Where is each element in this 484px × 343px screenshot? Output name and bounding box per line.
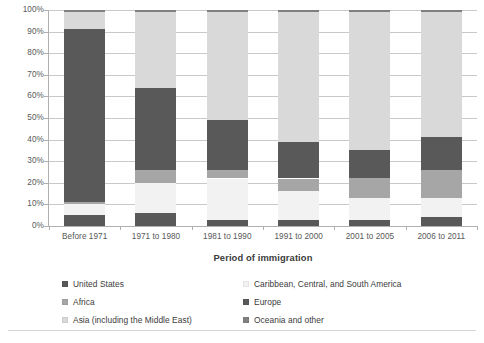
y-tick-mark — [44, 118, 49, 119]
x-axis-labels: Before 19711971 to 19801981 to 19901991 … — [49, 232, 477, 242]
chart-legend: United StatesAfricaAsia (including the M… — [0, 276, 484, 332]
y-tick-label: 70% — [2, 71, 44, 79]
legend-label: Africa — [73, 298, 95, 307]
bar-slot — [120, 10, 191, 226]
x-tick-label-6: 2006 to 2011 — [406, 232, 477, 242]
bar-segment[interactable] — [421, 170, 462, 198]
bar-segment[interactable] — [278, 220, 319, 226]
x-tick-mark — [477, 226, 478, 230]
y-tick-mark — [44, 10, 49, 11]
legend-column-left: United StatesAfricaAsia (including the M… — [62, 276, 192, 330]
bar-segment[interactable] — [349, 220, 390, 226]
y-axis-labels: 100%90%80%70%60%50%40%30%20%10%0% — [2, 10, 44, 225]
bar-segment[interactable] — [135, 10, 176, 12]
bar-slot — [263, 10, 334, 226]
legend-swatch-icon — [62, 281, 68, 287]
bar-segment[interactable] — [349, 10, 390, 12]
legend-swatch-icon — [62, 317, 68, 323]
x-tick-mark — [192, 226, 193, 230]
y-tick-label: 10% — [2, 200, 44, 208]
bar-segment[interactable] — [278, 10, 319, 12]
x-tick-mark — [120, 226, 121, 230]
legend-item[interactable]: Caribbean, Central, and South America — [243, 276, 402, 292]
bar-segment[interactable] — [135, 183, 176, 213]
stacked-bar[interactable] — [278, 10, 319, 226]
bar-slot — [192, 10, 263, 226]
bar-segment[interactable] — [349, 150, 390, 178]
legend-column-right: Caribbean, Central, and South AmericaEur… — [243, 276, 402, 330]
bar-segment[interactable] — [64, 12, 105, 29]
y-tick-label: 0% — [2, 222, 44, 230]
bar-segment[interactable] — [135, 12, 176, 88]
y-tick-mark — [44, 140, 49, 141]
legend-swatch-icon — [243, 299, 249, 305]
stacked-bar-chart: 100%90%80%70%60%50%40%30%20%10%0% Before… — [0, 0, 484, 343]
bar-segment[interactable] — [64, 215, 105, 226]
bar-segment[interactable] — [349, 178, 390, 197]
stacked-bar[interactable] — [64, 10, 105, 226]
legend-divider — [8, 330, 476, 331]
bar-segment[interactable] — [207, 170, 248, 179]
y-tick-mark — [44, 161, 49, 162]
bar-segment[interactable] — [421, 10, 462, 12]
y-tick-mark — [44, 75, 49, 76]
legend-label: Oceania and other — [254, 316, 324, 325]
y-tick-label: 40% — [2, 135, 44, 143]
bar-segment[interactable] — [135, 170, 176, 183]
bar-slot — [49, 10, 120, 226]
bar-segment[interactable] — [64, 10, 105, 12]
legend-label: Caribbean, Central, and South America — [254, 280, 402, 289]
bar-segment[interactable] — [421, 12, 462, 137]
x-tick-label-1: Before 1971 — [49, 232, 120, 242]
bar-segment[interactable] — [278, 191, 319, 219]
legend-item[interactable]: Africa — [62, 294, 192, 310]
x-tick-mark — [406, 226, 407, 230]
stacked-bar[interactable] — [421, 10, 462, 226]
legend-swatch-icon — [243, 317, 249, 323]
legend-label: Asia (including the Middle East) — [73, 316, 192, 325]
bar-segment[interactable] — [135, 88, 176, 170]
bar-segment[interactable] — [207, 10, 248, 12]
bar-segment[interactable] — [207, 179, 248, 220]
y-tick-mark — [44, 204, 49, 205]
bar-segment[interactable] — [135, 213, 176, 226]
legend-swatch-icon — [243, 281, 249, 287]
x-tick-mark — [334, 226, 335, 230]
bar-segment[interactable] — [278, 12, 319, 142]
bar-segment[interactable] — [64, 202, 105, 204]
y-tick-label: 90% — [2, 27, 44, 35]
bar-segment[interactable] — [421, 198, 462, 217]
plot-area: 100%90%80%70%60%50%40%30%20%10%0% Before… — [0, 0, 484, 245]
x-tick-mark — [49, 226, 50, 230]
bar-segment[interactable] — [349, 198, 390, 220]
y-tick-mark — [44, 96, 49, 97]
legend-item[interactable]: United States — [62, 276, 192, 292]
bar-segment[interactable] — [421, 217, 462, 226]
bar-segment[interactable] — [278, 142, 319, 179]
y-tick-mark — [44, 32, 49, 33]
x-tick-mark — [263, 226, 264, 230]
stacked-bar[interactable] — [349, 10, 390, 226]
bar-segment[interactable] — [421, 137, 462, 169]
stacked-bar[interactable] — [207, 10, 248, 226]
legend-item[interactable]: Asia (including the Middle East) — [62, 312, 192, 328]
y-tick-label: 50% — [2, 114, 44, 122]
bar-segment[interactable] — [207, 220, 248, 226]
bar-segment[interactable] — [64, 29, 105, 202]
legend-item[interactable]: Europe — [243, 294, 402, 310]
bar-segment[interactable] — [278, 179, 319, 192]
bar-segment[interactable] — [349, 12, 390, 150]
bar-slot — [406, 10, 477, 226]
stacked-bar[interactable] — [135, 10, 176, 226]
x-axis-title: Period of immigration — [49, 252, 477, 263]
y-tick-label: 80% — [2, 49, 44, 57]
y-tick-label: 20% — [2, 179, 44, 187]
bar-segment[interactable] — [207, 12, 248, 120]
legend-label: United States — [73, 280, 124, 289]
bar-segment[interactable] — [64, 204, 105, 215]
bar-segment[interactable] — [207, 120, 248, 170]
bars-layer — [49, 10, 477, 226]
y-tick-mark — [44, 53, 49, 54]
legend-swatch-icon — [62, 299, 68, 305]
legend-item[interactable]: Oceania and other — [243, 312, 402, 328]
